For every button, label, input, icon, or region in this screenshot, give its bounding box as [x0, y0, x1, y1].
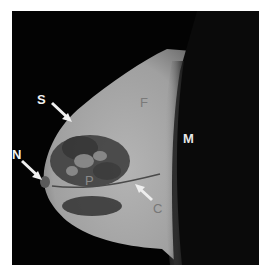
- label-n: N: [12, 148, 21, 161]
- label-f: F: [140, 96, 148, 109]
- label-s: S: [37, 93, 46, 106]
- arrow-s-icon: [52, 103, 72, 122]
- mri-image-panel: S N F M P C: [12, 11, 259, 265]
- nipple: [40, 176, 50, 188]
- label-m: M: [183, 132, 194, 145]
- breast-mri-graphic: [12, 11, 259, 265]
- arrow-n-icon: [22, 161, 42, 180]
- label-p: P: [85, 174, 94, 187]
- label-c: C: [153, 202, 162, 215]
